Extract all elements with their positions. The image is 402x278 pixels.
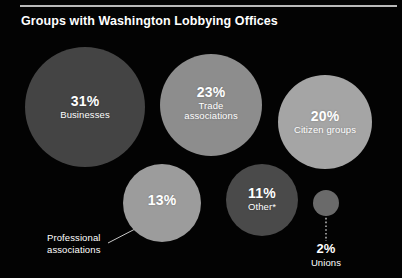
bubble-name-businesses: Businesses — [25, 110, 145, 121]
bubble-label-professional-associations: 13% — [123, 193, 201, 209]
callout-name-professional-associations-line2: associations — [47, 244, 100, 256]
bubble-value-businesses: 31% — [25, 94, 145, 110]
bubble-name-citizen-groups: Citizen groups — [272, 125, 378, 136]
callout-name-professional-associations-line1: Professional — [47, 232, 100, 244]
bubble-plot-area: 31% Businesses 23% Trade associations 20… — [0, 0, 402, 278]
bubble-name-other: Other* — [226, 202, 298, 213]
callout-value-unions: 2% — [286, 241, 366, 257]
bubble-name-trade-associations-line2: associations — [160, 111, 262, 122]
bubble-label-trade-associations: 23% Trade associations — [160, 85, 262, 122]
bubble-label-citizen-groups: 20% Citizen groups — [272, 109, 378, 135]
bubble-label-other: 11% Other* — [226, 186, 298, 212]
callout-unions: 2% Unions — [286, 241, 366, 269]
bubble-value-professional-associations: 13% — [123, 193, 201, 209]
bubble-chart-figure: Groups with Washington Lobbying Offices … — [0, 0, 402, 278]
footnote-area — [0, 274, 402, 278]
bubble-unions[interactable] — [313, 190, 339, 216]
bubble-value-other: 11% — [226, 186, 298, 202]
callout-professional-associations: Professional associations — [47, 232, 100, 256]
bubble-label-businesses: 31% Businesses — [25, 94, 145, 120]
callout-name-unions: Unions — [286, 257, 366, 269]
leader-line-professional-associations — [108, 228, 137, 243]
bubble-value-trade-associations: 23% — [160, 85, 262, 101]
bubble-value-citizen-groups: 20% — [272, 109, 378, 125]
